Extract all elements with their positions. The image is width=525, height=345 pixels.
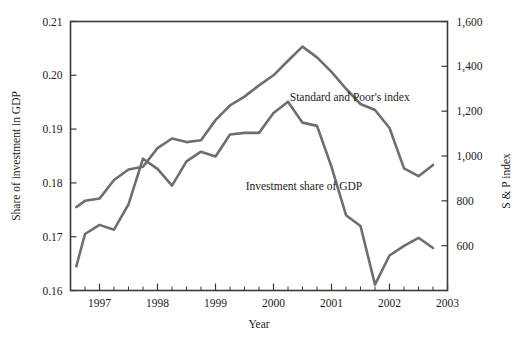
y-tick-label-right: 1,400 (457, 60, 483, 73)
x-tick-label: 1997 (88, 297, 111, 309)
x-tick-label: 2002 (378, 297, 401, 309)
x-axis-major-ticks (100, 284, 448, 291)
y-tick-label-right: 1,600 (457, 16, 483, 29)
x-axis-title: Year (248, 318, 269, 330)
y-axis-title-left: Share of investment in GDP (10, 91, 22, 221)
y-axis-left-ticks (71, 22, 77, 291)
y-tick-label-left: 0.20 (42, 69, 62, 81)
y-tick-label-left: 0.16 (42, 285, 62, 297)
y-tick-label-left: 0.21 (42, 16, 62, 28)
y-tick-label-left: 0.19 (42, 123, 62, 135)
y-axis-right-tick-labels: 6008001,0001,2001,4001,600 (457, 16, 483, 252)
y-tick-label-left: 0.18 (42, 177, 62, 189)
line-chart: 0.160.170.180.190.200.21 6008001,0001,20… (0, 0, 525, 345)
y-axis-left-tick-labels: 0.160.170.180.190.200.21 (42, 16, 62, 297)
y-tick-label-right: 1,000 (457, 150, 483, 163)
plot-frame (71, 22, 448, 291)
y-tick-label-right: 600 (457, 240, 475, 252)
y-axis-title-right: S & P index (500, 153, 512, 209)
y-tick-label-right: 1,200 (457, 105, 483, 118)
plot-border (71, 22, 448, 291)
series-lines (76, 47, 433, 285)
y-tick-label-left: 0.17 (42, 231, 62, 243)
series-annotation: Standard and Poor's index (290, 91, 410, 103)
series-annotations: Standard and Poor's indexInvestment shar… (246, 91, 410, 192)
x-tick-label: 2001 (320, 297, 343, 309)
y-tick-label-right: 800 (457, 195, 475, 207)
x-tick-label: 2000 (262, 297, 285, 309)
series-annotation: Investment share of GDP (246, 180, 363, 192)
x-tick-label: 1998 (146, 297, 169, 309)
series-line (76, 102, 433, 285)
x-tick-label: 1999 (204, 297, 227, 309)
y-axis-right-ticks (442, 22, 448, 246)
x-axis-tick-labels: 1997199819992000200120022003 (88, 297, 459, 309)
x-tick-label: 2003 (436, 297, 459, 309)
chart-figure: 0.160.170.180.190.200.21 6008001,0001,20… (0, 0, 525, 345)
